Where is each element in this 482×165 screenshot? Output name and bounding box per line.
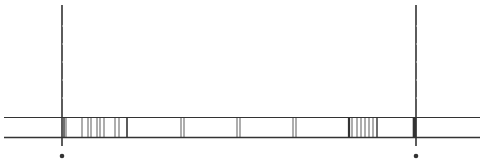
spectral-bar <box>82 118 83 138</box>
spectral-bar <box>293 118 294 138</box>
spectral-bar <box>369 118 370 138</box>
spectral-bar <box>100 118 101 138</box>
spectral-bar <box>373 118 374 138</box>
spectral-bar <box>361 118 362 138</box>
spectral-bar <box>357 118 358 138</box>
vertical-poles <box>60 5 419 158</box>
spectral-bar <box>88 118 89 138</box>
spectral-bar <box>376 118 377 138</box>
spectral-bar <box>181 118 182 138</box>
spectral-bar <box>91 118 92 138</box>
left-pole-marker-icon <box>60 154 65 159</box>
spectral-bar <box>97 118 98 138</box>
vertical-bars <box>63 118 416 138</box>
spectral-bar <box>115 118 116 138</box>
spectral-bar <box>184 118 185 138</box>
spectral-bar <box>240 118 241 138</box>
spectral-bar <box>296 118 297 138</box>
spectral-bar <box>119 118 120 138</box>
spectral-bar <box>126 118 128 138</box>
spectral-bar <box>66 118 67 138</box>
spectral-bar <box>237 118 238 138</box>
spectral-bar <box>104 118 105 138</box>
spectral-bar <box>352 118 353 138</box>
spectral-bar <box>348 118 350 138</box>
right-pole-marker-icon <box>414 154 419 159</box>
diagram-svg <box>0 0 482 165</box>
spectral-bar <box>63 118 64 138</box>
spectral-bar-diagram <box>0 0 482 165</box>
horizontal-rails <box>4 118 480 138</box>
spectral-bar <box>365 118 366 138</box>
